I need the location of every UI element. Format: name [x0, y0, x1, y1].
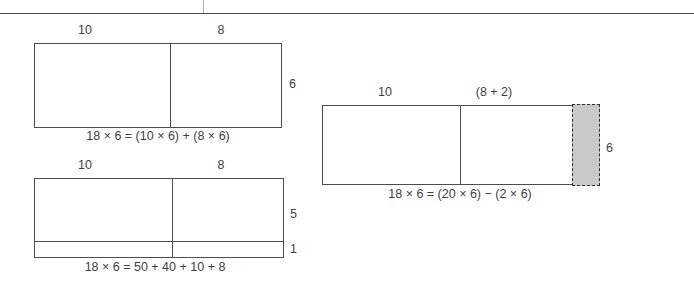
figure1-vertical-divider [170, 43, 171, 128]
figure2-top-label-left: 10 [60, 158, 110, 172]
figure2-caption: 18 × 6 = 50 + 40 + 10 + 8 [30, 260, 280, 275]
figure1-caption: 18 × 6 = (10 × 6) + (8 × 6) [34, 129, 282, 144]
figure1-rectangle [34, 43, 282, 128]
figure2-vertical-divider [172, 178, 173, 258]
figure3-top-label-left: 10 [363, 85, 407, 99]
figure1-top-label-right: 8 [201, 23, 241, 37]
figure2-top-label-right: 8 [201, 158, 241, 172]
figure2-side-label-lower: 1 [290, 242, 297, 256]
horizontal-rule [0, 13, 694, 14]
figure3-subtracted-block [572, 104, 600, 186]
figure3-caption: 18 × 6 = (20 × 6) − (2 × 6) [335, 187, 585, 202]
figure3-top-label-right: (8 + 2) [468, 85, 520, 99]
figure3-side-label: 6 [606, 141, 613, 155]
figure1-side-label: 6 [289, 77, 296, 91]
figure-page: 10 8 6 18 × 6 = (10 × 6) + (8 × 6) 10 8 … [0, 0, 694, 289]
figure2-side-label-upper: 5 [290, 207, 297, 221]
figure3-rectangle [322, 105, 573, 185]
figure1-top-label-left: 10 [60, 23, 110, 37]
figure2-horizontal-divider [34, 241, 284, 242]
figure2-rectangle [34, 178, 284, 258]
rule-tick-mark [203, 0, 204, 13]
figure3-vertical-divider [460, 105, 461, 185]
